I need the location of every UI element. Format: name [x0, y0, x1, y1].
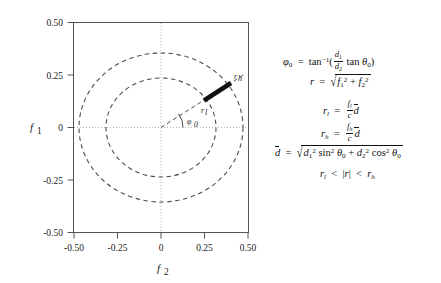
y-tick-label-4: -0.50: [43, 228, 63, 238]
radius-band-segment: [204, 83, 231, 101]
x-axis-ticks: [74, 233, 248, 239]
y-tick-label-3: -0.25: [43, 176, 63, 186]
rh-label: r h: [234, 72, 242, 83]
phi0-angle-label-symbol: φ: [187, 117, 192, 126]
equation-rh: rh = fhcd: [321, 122, 360, 142]
x-tick-label-2: 0: [159, 243, 164, 253]
rl-label: r l: [201, 106, 208, 117]
y-axis-ticks: [68, 23, 74, 233]
rh-label-sub: h: [238, 74, 242, 83]
x-tick-label-4: 0.50: [240, 243, 257, 253]
y-tick-label-2: 0: [58, 123, 63, 133]
figure-root: 0.50 0.25 0 -0.25 -0.50 -0.50 -0.25 0 0.…: [0, 0, 441, 283]
equation-r: r = √f12 + f22: [310, 74, 371, 89]
y-axis-name: f 1: [30, 121, 42, 136]
phi0-angle-label: φ 0: [187, 117, 198, 129]
rl-label-sub: l: [205, 108, 208, 117]
x-tick-label-3: 0.25: [196, 243, 213, 253]
radial-ray-phi0: [161, 74, 245, 128]
x-tick-label-0: -0.50: [64, 243, 84, 253]
equation-rl: rl = flcd: [323, 99, 359, 119]
x-tick-label-1: -0.25: [108, 243, 128, 253]
y-tick-label-1: 0.25: [46, 71, 63, 81]
x-axis-name-base: f: [157, 262, 162, 274]
x-axis-name: f 2: [157, 262, 169, 277]
equation-phi0: φ0 = tan−1(d1d2 tan θ0): [283, 50, 374, 72]
phi0-angle-arc: [179, 114, 184, 128]
equation-dbar: d = √d12 sin2 θ0 + d22 cos2 θ0: [275, 145, 403, 160]
y-axis-name-sub: 1: [37, 126, 42, 136]
x-axis-name-sub: 2: [164, 267, 169, 277]
y-axis-name-base: f: [30, 121, 35, 133]
equation-inequality: rl < |r| < rh: [320, 168, 375, 181]
plot-svg: 0.50 0.25 0 -0.25 -0.50 -0.50 -0.25 0 0.…: [0, 0, 441, 283]
phi0-angle-label-sub: 0: [194, 120, 198, 129]
y-tick-label-0: 0.50: [46, 18, 63, 28]
